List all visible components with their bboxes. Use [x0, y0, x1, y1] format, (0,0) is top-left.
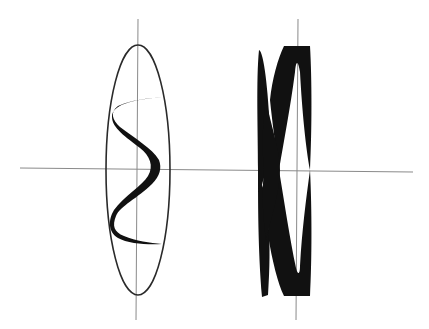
right-ribbon-group — [257, 46, 311, 297]
diagram-canvas — [0, 0, 429, 329]
left-helix-ribbon — [110, 97, 162, 244]
horizontal-axis — [20, 168, 413, 172]
